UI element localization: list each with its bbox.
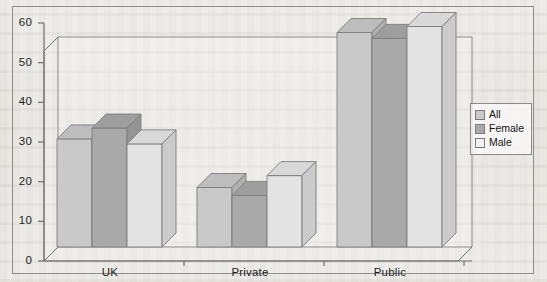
legend-label-male: Male: [489, 137, 512, 148]
chart-legend: All Female Male: [470, 103, 532, 155]
legend-item-all[interactable]: All: [475, 108, 526, 121]
legend-item-female[interactable]: Female: [475, 122, 526, 135]
legend-swatch-male-icon: [475, 138, 485, 148]
y-tick-label-10: 10: [6, 214, 32, 226]
x-tick-label-uk: UK: [65, 266, 155, 278]
bar-private-male: [267, 162, 316, 247]
bar-chart-plot: [0, 0, 547, 282]
y-tick-label-0: 0: [6, 254, 32, 266]
bar-uk-male: [127, 130, 176, 247]
bar-public-male: [407, 13, 456, 248]
legend-swatch-all-icon: [475, 110, 485, 120]
legend-label-female: Female: [489, 123, 524, 134]
x-tick-label-private: Private: [205, 266, 295, 278]
x-tick-label-public: Public: [345, 266, 435, 278]
y-tick-label-20: 20: [6, 175, 32, 187]
y-tick-label-60: 60: [6, 16, 32, 28]
legend-label-all: All: [489, 109, 501, 120]
y-tick-label-50: 50: [6, 56, 32, 68]
y-tick-label-30: 30: [6, 135, 32, 147]
legend-swatch-female-icon: [475, 124, 485, 134]
legend-item-male[interactable]: Male: [475, 136, 526, 149]
y-tick-label-40: 40: [6, 95, 32, 107]
